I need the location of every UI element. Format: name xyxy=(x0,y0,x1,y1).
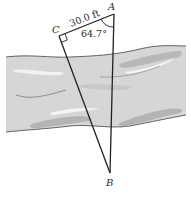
angle-arc-a xyxy=(101,19,114,27)
triangle-river-diagram: A C B 30.0 ft 64.7° xyxy=(0,0,191,198)
diagram-canvas: A C B 30.0 ft 64.7° xyxy=(0,0,191,198)
label-angle-a: 64.7° xyxy=(81,28,107,39)
label-point-b: B xyxy=(105,177,113,188)
label-point-a: A xyxy=(107,1,115,12)
label-point-c: C xyxy=(52,24,60,35)
